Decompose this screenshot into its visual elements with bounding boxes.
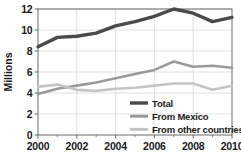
- x-axis-tick-labels: 200020022004200620082010: [27, 140, 241, 152]
- chart-figure: 024681012 200020022004200620082010 Milli…: [0, 0, 241, 165]
- legend-label: From other countries: [152, 124, 241, 135]
- y-tick-label: 10: [21, 24, 33, 36]
- y-axis-tick-labels: 024681012: [21, 3, 33, 141]
- x-tick-label: 2010: [221, 140, 241, 152]
- y-axis-ticks: [35, 9, 39, 135]
- y-tick-label: 6: [27, 66, 33, 78]
- legend-label: Total: [152, 98, 173, 109]
- x-tick-label: 2008: [182, 140, 205, 152]
- line-chart: 024681012 200020022004200620082010 Milli…: [0, 0, 241, 165]
- y-tick-label: 4: [27, 87, 33, 99]
- x-tick-label: 2006: [143, 140, 166, 152]
- y-tick-label: 8: [27, 45, 33, 57]
- legend-label: From Mexico: [152, 111, 209, 122]
- x-tick-label: 2000: [27, 140, 50, 152]
- y-axis-title: Millions: [2, 52, 14, 91]
- y-tick-label: 2: [27, 108, 33, 120]
- y-tick-label: 12: [21, 3, 33, 15]
- x-tick-label: 2004: [104, 140, 127, 152]
- x-tick-label: 2002: [66, 140, 89, 152]
